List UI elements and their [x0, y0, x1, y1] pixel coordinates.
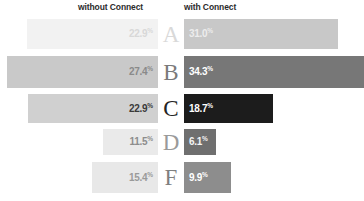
bar-without-connect: 22.9%: [27, 19, 158, 49]
chart-row: 11.5%D6.1%: [0, 129, 364, 155]
bar-with-connect: 31.0%: [184, 19, 338, 49]
grade-label-c: C: [158, 94, 184, 123]
bar-value-without-connect: 22.9%: [129, 28, 153, 39]
bar-value-with-connect: 6.1%: [189, 136, 208, 147]
bar-with-connect: 34.3%: [184, 56, 364, 88]
bar-value-without-connect: 22.9%: [129, 103, 153, 114]
chart-row: 15.4%F9.9%: [0, 162, 364, 193]
bar-value-without-connect: 27.4%: [129, 66, 153, 77]
bar-with-connect: 18.7%: [184, 94, 273, 123]
grade-label-b: B: [158, 56, 184, 88]
paired-bar-chart: without Connect with Connect 22.9%A31.0%…: [0, 0, 364, 201]
bar-value-with-connect: 18.7%: [189, 103, 213, 114]
bar-value-with-connect: 9.9%: [189, 172, 208, 183]
bar-value-with-connect: 31.0%: [189, 28, 213, 39]
column-header-without-connect: without Connect: [78, 1, 143, 13]
grade-label-a: A: [158, 19, 184, 49]
bar-without-connect: 11.5%: [103, 129, 158, 155]
bar-with-connect: 9.9%: [184, 162, 231, 193]
chart-row: 27.4%B34.3%: [0, 56, 364, 88]
column-header-with-connect: with Connect: [184, 1, 236, 13]
bar-without-connect: 15.4%: [92, 162, 158, 193]
grade-label-d: D: [158, 129, 184, 155]
bar-without-connect: 22.9%: [28, 94, 158, 123]
bar-without-connect: 27.4%: [7, 56, 158, 88]
chart-row: 22.9%A31.0%: [0, 19, 364, 49]
chart-row: 22.9%C18.7%: [0, 94, 364, 123]
bar-value-with-connect: 34.3%: [189, 66, 213, 77]
bar-value-without-connect: 15.4%: [129, 172, 153, 183]
bar-value-without-connect: 11.5%: [130, 136, 154, 147]
bar-with-connect: 6.1%: [184, 129, 216, 155]
grade-label-f: F: [158, 162, 184, 193]
